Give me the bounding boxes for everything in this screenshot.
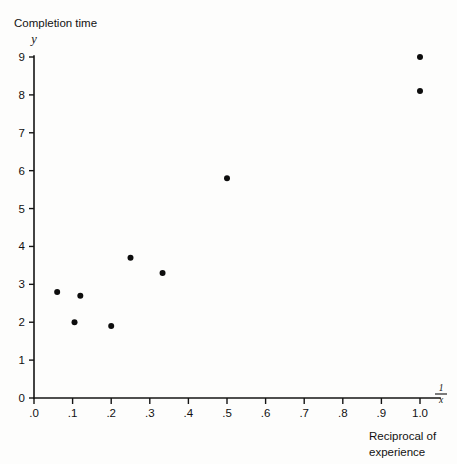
plot-canvas: Completion timey0123456789.0.1.2.3.4.5.6… <box>0 0 457 464</box>
x-axis-label-numerator: 1 <box>439 383 444 393</box>
data-point <box>77 293 83 299</box>
data-point <box>54 289 60 295</box>
y-tick-label: 1 <box>19 354 25 366</box>
x-tick-label: .2 <box>106 407 116 419</box>
x-tick-label: .1 <box>68 407 78 419</box>
x-axis-caption-line1: Reciprocal of <box>369 430 437 442</box>
x-tick-label: .5 <box>222 407 232 419</box>
x-tick-label: .0 <box>29 407 39 419</box>
data-point <box>417 54 423 60</box>
data-point <box>224 175 230 181</box>
data-point <box>160 270 166 276</box>
data-point <box>108 323 114 329</box>
scatter-plot-figure: Completion timey0123456789.0.1.2.3.4.5.6… <box>0 0 457 464</box>
x-tick-label: .4 <box>184 407 194 419</box>
y-tick-label: 0 <box>19 392 25 404</box>
data-point <box>417 88 423 94</box>
x-axis-label-denominator: x <box>438 395 444 405</box>
x-tick-label: .7 <box>299 407 309 419</box>
x-tick-label: .3 <box>145 407 155 419</box>
x-tick-label: .6 <box>261 407 271 419</box>
y-tick-label: 4 <box>19 240 26 252</box>
x-tick-label: 1.0 <box>412 407 428 419</box>
y-tick-label: 2 <box>19 316 25 328</box>
y-tick-label: 8 <box>19 89 25 101</box>
y-axis-title: Completion time <box>14 17 97 29</box>
x-tick-label: .9 <box>377 407 387 419</box>
y-tick-label: 3 <box>19 278 25 290</box>
y-tick-label: 6 <box>19 165 25 177</box>
x-axis-caption-line2: experience <box>369 446 425 458</box>
x-tick-label: .8 <box>338 407 348 419</box>
y-tick-label: 9 <box>19 51 25 63</box>
data-point <box>72 319 78 325</box>
y-tick-label: 7 <box>19 127 25 139</box>
y-tick-label: 5 <box>19 203 25 215</box>
data-point <box>128 255 134 261</box>
y-axis-variable: y <box>29 32 37 46</box>
